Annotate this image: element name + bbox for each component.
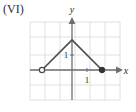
x-unit-label: 1 xyxy=(85,75,90,85)
y-axis-arrowhead xyxy=(69,17,76,24)
y-unit-label: 1 xyxy=(64,50,69,60)
y-axis-label: y xyxy=(69,4,75,15)
figure-container: (VI) xyxy=(0,0,136,112)
closed-endpoint-marker xyxy=(99,67,105,73)
open-endpoint-marker xyxy=(39,67,44,72)
x-axis-label: x xyxy=(123,65,129,76)
coordinate-plot: x y 1 1 xyxy=(0,0,136,112)
